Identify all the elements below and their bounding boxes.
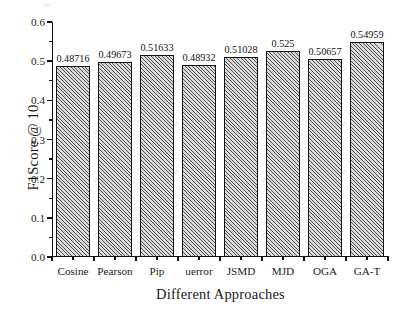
bar-series: 0.487160.496730.516330.489320.510280.525… — [52, 22, 388, 257]
bar-chart: 0.00.10.20.30.40.50.6 0.487160.496730.51… — [0, 0, 408, 316]
x-minor-tick-mark — [72, 256, 73, 260]
x-tick-mark — [219, 256, 220, 261]
x-tick-mark — [345, 256, 346, 261]
bar-pip[interactable] — [140, 55, 174, 257]
x-tick-mark — [303, 256, 304, 261]
y-tick-label: 0.0 — [31, 249, 45, 265]
bar-slot: 0.49673 — [98, 22, 132, 257]
bar-oga[interactable] — [308, 59, 342, 257]
bar-value-label: 0.48716 — [56, 53, 89, 65]
x-tick-mark — [51, 256, 52, 261]
x-category-label-uerror: uerror — [185, 264, 212, 279]
x-minor-tick-mark — [156, 256, 157, 260]
bar-value-label: 0.51028 — [224, 44, 257, 56]
x-minor-tick-mark — [366, 256, 367, 260]
bar-slot: 0.51633 — [140, 22, 174, 257]
bar-value-label: 0.50657 — [308, 46, 341, 58]
bar-value-label: 0.51633 — [140, 42, 173, 54]
y-tick-label: 0.6 — [31, 14, 45, 30]
y-axis-title: F1Score @ 10 — [25, 63, 42, 233]
x-category-label-mjd: MJD — [272, 264, 294, 279]
bar-slot: 0.48716 — [56, 22, 90, 257]
x-category-label-jsmd: JSMD — [227, 264, 256, 279]
x-axis-title: Different Approaches — [52, 286, 389, 303]
x-category-label-ga-t: GA-T — [354, 264, 381, 279]
bar-mjd[interactable] — [266, 51, 300, 257]
x-category-label-pip: Pip — [150, 264, 165, 279]
bar-value-label: 0.525 — [272, 38, 295, 50]
x-minor-tick-mark — [198, 256, 199, 260]
bar-cosine[interactable] — [56, 66, 90, 257]
bar-ga-t[interactable] — [350, 42, 384, 257]
x-minor-tick-mark — [282, 256, 283, 260]
bar-value-label: 0.49673 — [98, 49, 131, 61]
scan-artifact — [44, 3, 50, 7]
x-tick-mark — [177, 256, 178, 261]
x-tick-mark — [135, 256, 136, 261]
bar-slot: 0.48932 — [182, 22, 216, 257]
x-minor-tick-mark — [324, 256, 325, 260]
bar-slot: 0.50657 — [308, 22, 342, 257]
bar-slot: 0.525 — [266, 22, 300, 257]
bar-value-label: 0.48932 — [182, 52, 215, 64]
x-tick-mark — [261, 256, 262, 261]
x-minor-tick-mark — [114, 256, 115, 260]
x-category-label-cosine: Cosine — [57, 264, 88, 279]
bar-uerror[interactable] — [182, 65, 216, 257]
bar-value-label: 0.54959 — [350, 29, 383, 41]
bar-slot: 0.51028 — [224, 22, 258, 257]
x-category-label-pearson: Pearson — [97, 264, 132, 279]
bar-jsmd[interactable] — [224, 57, 258, 257]
bar-pearson[interactable] — [98, 62, 132, 257]
x-minor-tick-mark — [240, 256, 241, 260]
x-tick-mark — [387, 256, 388, 261]
x-category-label-oga: OGA — [313, 264, 337, 279]
x-tick-mark — [93, 256, 94, 261]
bar-slot: 0.54959 — [350, 22, 384, 257]
